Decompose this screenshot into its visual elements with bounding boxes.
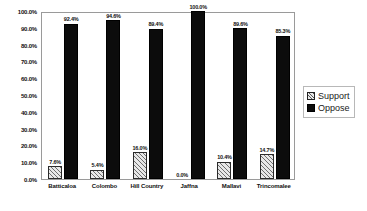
- y-axis-tick-label: 30.0%: [21, 127, 37, 133]
- bar-oppose: [191, 11, 205, 179]
- bar-group: 16.0%89.4%: [127, 13, 169, 179]
- y-axis-tick-label: 80.0%: [21, 43, 37, 49]
- y-axis-tick-label: 100.0%: [18, 9, 37, 15]
- y-axis-tick-label: 90.0%: [21, 26, 37, 32]
- x-axis-tick-label: Jaffna: [181, 183, 198, 189]
- y-axis-tick-label: 50.0%: [21, 93, 37, 99]
- bar-oppose: [233, 28, 247, 179]
- legend-swatch-oppose-icon: [307, 104, 315, 112]
- x-axis-tick-label: Trincomalee: [257, 183, 291, 189]
- bar-group: 7.6%92.4%: [42, 13, 84, 179]
- y-axis-tick-label: 70.0%: [21, 59, 37, 65]
- legend-item-support: Support: [307, 90, 350, 102]
- bar-chart: 0.0%10.0%20.0%30.0%40.0%50.0%60.0%70.0%8…: [0, 0, 367, 211]
- bar-support: [90, 170, 104, 179]
- bar-value-label: 92.4%: [58, 16, 84, 22]
- legend-item-oppose: Oppose: [307, 102, 350, 114]
- legend-label-oppose: Oppose: [318, 103, 350, 113]
- bar-support: [217, 162, 231, 179]
- y-axis-tick-label: 0.0%: [24, 177, 37, 183]
- bar-group: 14.7%85.3%: [254, 13, 296, 179]
- bar-group: 5.4%94.6%: [84, 13, 126, 179]
- bar-value-label: 89.6%: [227, 21, 253, 27]
- chart-legend: Support Oppose: [303, 86, 355, 118]
- plot-area: 7.6%92.4%5.4%94.6%16.0%89.4%0.0%100.0%10…: [41, 12, 295, 180]
- legend-label-support: Support: [318, 91, 350, 101]
- bar-support: [260, 154, 274, 179]
- bar-value-label: 85.3%: [270, 28, 296, 34]
- x-axis-tick-label: Batticaloa: [48, 183, 76, 189]
- bar-value-label: 89.4%: [143, 21, 169, 27]
- bar-value-label: 100.0%: [185, 4, 211, 10]
- x-axis-tick-label: Colombo: [92, 183, 117, 189]
- x-axis-tick-label: Hill Country: [130, 183, 163, 189]
- legend-swatch-support-icon: [307, 92, 315, 100]
- bar-oppose: [149, 29, 163, 179]
- y-axis-tick-label: 60.0%: [21, 76, 37, 82]
- y-axis-tick-label: 20.0%: [21, 143, 37, 149]
- bar-group: 10.4%89.6%: [211, 13, 253, 179]
- bar-support: [48, 166, 62, 179]
- bars-layer: 7.6%92.4%5.4%94.6%16.0%89.4%0.0%100.0%10…: [42, 13, 294, 179]
- y-axis-tick-label: 40.0%: [21, 110, 37, 116]
- bar-oppose: [64, 24, 78, 179]
- bar-oppose: [276, 36, 290, 179]
- bar-group: 0.0%100.0%: [169, 13, 211, 179]
- x-axis-tick-label: Mallavi: [222, 183, 241, 189]
- x-axis: BatticaloaColomboHill CountryJaffnaMalla…: [41, 183, 295, 199]
- y-axis: 0.0%10.0%20.0%30.0%40.0%50.0%60.0%70.0%8…: [0, 12, 40, 180]
- bar-oppose: [106, 20, 120, 179]
- bar-value-label: 94.6%: [100, 13, 126, 19]
- y-axis-tick-label: 10.0%: [21, 160, 37, 166]
- bar-support: [133, 152, 147, 179]
